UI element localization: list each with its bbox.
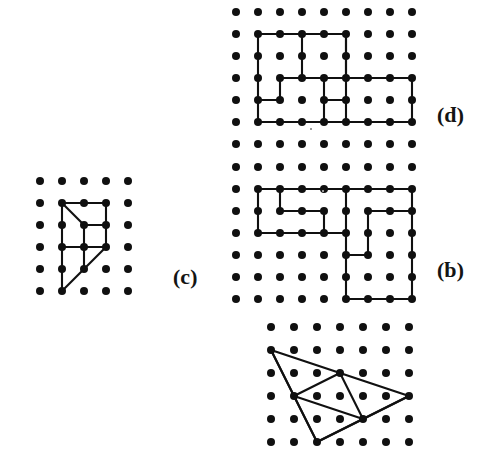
lattice-dot [364,163,372,171]
scan-speck [310,128,312,130]
lattice-dot [276,163,284,171]
lattice-dot [36,265,44,273]
geoboard-panel-bottom [264,320,416,449]
lattice-dot [276,52,284,60]
figure-root: (p)(q)(ɔ) [0,0,501,453]
lattice-dot [364,52,372,60]
lattice-dot [36,243,44,251]
lattice-dot [313,415,321,423]
lattice-dot [408,52,416,60]
lattice-dot [267,392,275,400]
lattice-dot [320,140,328,148]
lattice-dot [336,415,344,423]
lattice-dot [342,140,350,148]
lattice-dot [124,243,132,251]
lattice-dot [102,287,110,295]
lattice-dot [254,163,262,171]
lattice-dot [232,118,240,126]
lattice-dot [386,273,394,281]
lattice-dot [313,323,321,331]
lattice-dot [386,30,394,38]
lattice-dot [386,8,394,16]
lattice-dot [290,346,298,354]
lattice-dot [232,295,240,303]
lattice-dot [359,323,367,331]
lattice-dot [336,346,344,354]
lattice-dot [359,392,367,400]
lattice-dot [267,369,275,377]
lattice-dot [364,30,372,38]
lattice-dot [359,346,367,354]
polygon-edge [62,269,84,291]
lattice-dot [313,392,321,400]
lattice-dot [276,295,284,303]
lattice-dot [336,323,344,331]
lattice-dot [232,229,240,237]
lattice-dot [386,96,394,104]
lattice-dot [320,295,328,303]
lattice-dot [232,96,240,104]
lattice-dot [276,251,284,259]
lattice-dot [405,415,413,423]
lattice-dot [232,140,240,148]
lattice-dot [290,415,298,423]
lattice-dot [359,369,367,377]
lattice-dot [254,251,262,259]
lattice-dot [36,287,44,295]
lattice-dot [336,392,344,400]
lattice-dot [386,229,394,237]
lattice-dot [232,163,240,171]
polygon-edge [258,78,280,100]
lattice-dot [386,251,394,259]
lattice-dot [405,369,413,377]
lattice-dot [408,140,416,148]
polygon-edge [324,78,346,100]
lattice-dot [364,96,372,104]
lattice-dot [267,415,275,423]
lattice-dot [298,251,306,259]
lattice-dot [405,346,413,354]
panel-label-q: (q) [437,263,464,285]
geoboard-panel-c [33,174,135,298]
lattice-dot [290,369,298,377]
lattice-dot [405,323,413,331]
lattice-dot [382,438,390,446]
geoboard-panel-p [229,5,419,151]
lattice-dot [336,438,344,446]
lattice-dot [36,177,44,185]
lattice-dot [364,140,372,148]
lattice-dot [232,185,240,193]
lattice-dot [342,163,350,171]
lattice-dot [359,438,367,446]
lattice-dot [408,163,416,171]
lattice-dot [124,177,132,185]
lattice-dot [298,295,306,303]
lattice-dot [320,52,328,60]
lattice-dot [36,221,44,229]
panel-label-c: (ɔ) [173,270,197,292]
lattice-dot [254,273,262,281]
lattice-dot [298,96,306,104]
lattice-dot [58,177,66,185]
lattice-dot [382,346,390,354]
lattice-dot [276,273,284,281]
lattice-dot [298,140,306,148]
lattice-dot [232,52,240,60]
lattice-dot [386,52,394,60]
lattice-dot [290,323,298,331]
lattice-dot [342,8,350,16]
lattice-dot [80,177,88,185]
lattice-dot [124,221,132,229]
lattice-dot [408,8,416,16]
lattice-dot [320,273,328,281]
lattice-dot [298,273,306,281]
lattice-dot [408,30,416,38]
lattice-dot [276,140,284,148]
lattice-dot [232,74,240,82]
lattice-dot [276,8,284,16]
lattice-dot [298,8,306,16]
lattice-dot [382,415,390,423]
lattice-dot [298,163,306,171]
lattice-dot [386,140,394,148]
geoboard-panel-q [229,160,419,306]
